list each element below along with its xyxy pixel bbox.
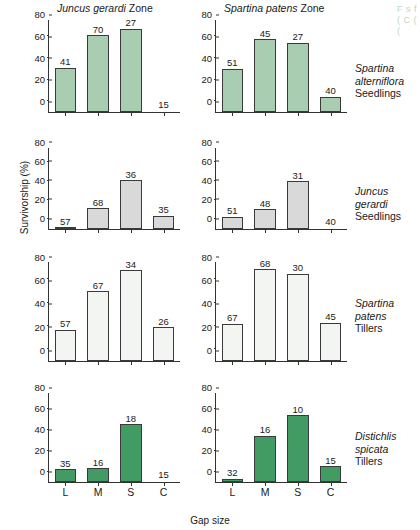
- bar-sample-size-label: 70: [93, 24, 104, 35]
- plot-area: 02040608057683635: [48, 148, 180, 230]
- bar-sample-size-label: 34: [126, 259, 137, 270]
- bar-sample-size-label: 40: [325, 216, 336, 227]
- bar-sample-size-label: 51: [227, 205, 238, 216]
- x-tick-mark: [265, 229, 266, 233]
- bar-L[interactable]: 51: [222, 69, 244, 112]
- x-tick-mark: [164, 482, 165, 486]
- bar-L[interactable]: 57: [55, 330, 77, 361]
- x-tick-mark: [265, 361, 266, 365]
- plot-area: 02040608051483140: [215, 148, 347, 230]
- panel-r1-c1: 02040608041702715: [48, 20, 180, 113]
- bar-sample-size-label: 15: [158, 469, 169, 480]
- bar-M[interactable]: 70: [87, 35, 109, 112]
- x-tick-label-C: C: [147, 486, 180, 498]
- bar-C[interactable]: 15: [320, 466, 342, 482]
- panel-r4-c1: 02040608035161815LMSC: [48, 393, 180, 483]
- x-tick-mark: [298, 112, 299, 116]
- bar-S[interactable]: 10: [287, 415, 309, 482]
- plot-area: 02040608051452740: [215, 20, 347, 113]
- x-tick-mark: [65, 112, 66, 116]
- x-tick-mark: [164, 229, 165, 233]
- x-tick-mark: [98, 361, 99, 365]
- bar-C[interactable]: 26: [153, 327, 175, 361]
- bar-slot-M: 68: [249, 262, 282, 361]
- bar-L[interactable]: 67: [222, 324, 244, 361]
- bar-slot-L: 51: [216, 20, 249, 112]
- bar-M[interactable]: 68: [87, 208, 109, 229]
- bar-S[interactable]: 36: [120, 180, 142, 229]
- panel-r3-c2: 02040608067683045: [215, 262, 347, 362]
- bar-sample-size-label: 68: [93, 197, 104, 208]
- bar-slot-L: 51: [216, 148, 249, 229]
- bar-slot-S: 10: [282, 393, 315, 482]
- bar-M[interactable]: 45: [254, 39, 276, 112]
- bar-L[interactable]: 35: [55, 469, 77, 482]
- bar-sample-size-label: 41: [60, 56, 71, 67]
- figure-canvas: F s f ( C ( ( Juncus gerardi Zone Sparti…: [0, 0, 420, 530]
- bar-C[interactable]: 40: [320, 97, 342, 112]
- bar-S[interactable]: 30: [287, 274, 309, 361]
- bar-group: 57673426: [49, 262, 180, 361]
- bar-slot-M: 67: [82, 262, 115, 361]
- bar-group: 51452740: [216, 20, 347, 112]
- bar-S[interactable]: 27: [287, 43, 309, 112]
- bar-slot-M: 16: [249, 393, 282, 482]
- bar-S[interactable]: 27: [120, 29, 142, 112]
- x-tick-label-L: L: [49, 486, 82, 498]
- x-tick-label-L: L: [216, 486, 249, 498]
- x-tick-mark: [265, 112, 266, 116]
- bar-S[interactable]: 34: [120, 270, 142, 361]
- bar-slot-L: 41: [49, 20, 82, 112]
- bar-sample-size-label: 27: [293, 31, 304, 42]
- bar-sample-size-label: 51: [227, 57, 238, 68]
- bar-sample-size-label: 57: [60, 216, 71, 227]
- bar-sample-size-label: 68: [260, 258, 271, 269]
- bar-S[interactable]: 31: [287, 181, 309, 229]
- bar-C[interactable]: 45: [320, 323, 342, 361]
- bar-M[interactable]: 68: [254, 269, 276, 361]
- bar-slot-S: 27: [115, 20, 148, 112]
- bar-M[interactable]: 16: [87, 468, 109, 482]
- panel-r2-c2: 02040608051483140: [215, 148, 347, 230]
- bar-sample-size-label: 67: [227, 312, 238, 323]
- y-tick-label: 80: [201, 251, 216, 262]
- x-tick-mark: [131, 229, 132, 233]
- x-tick-mark: [298, 229, 299, 233]
- y-tick-label: 80: [34, 251, 49, 262]
- bar-slot-C: 40: [314, 148, 347, 229]
- panel-r2-c1: 02040608057683635: [48, 148, 180, 230]
- bar-sample-size-label: 31: [293, 170, 304, 181]
- bar-S[interactable]: 18: [120, 424, 142, 482]
- bar-sample-size-label: 40: [325, 85, 336, 96]
- row-label-1: Spartina alterniflora Seedlings: [355, 62, 404, 100]
- column-title-left-genus: Juncus gerardi: [57, 2, 126, 14]
- bar-C[interactable]: 35: [153, 216, 175, 229]
- x-tick-mark: [65, 482, 66, 486]
- bar-M[interactable]: 48: [254, 209, 276, 229]
- y-tick-label: 60: [34, 275, 49, 286]
- x-tick-mark: [65, 361, 66, 365]
- row-label-4: Distichlis spicata Tillers: [355, 430, 396, 468]
- x-tick-mark: [298, 482, 299, 486]
- bar-sample-size-label: 15: [158, 99, 169, 110]
- y-tick-label: 40: [34, 298, 49, 309]
- bar-sample-size-label: 10: [293, 404, 304, 415]
- bar-slot-C: 45: [314, 262, 347, 361]
- bar-M[interactable]: 16: [254, 436, 276, 482]
- x-tick-mark: [164, 112, 165, 116]
- bar-group: 41702715: [49, 20, 180, 112]
- bar-L[interactable]: 41: [55, 68, 77, 112]
- bar-M[interactable]: 67: [87, 291, 109, 361]
- bar-slot-C: 35: [147, 148, 180, 229]
- bar-slot-S: 30: [282, 262, 315, 361]
- row-label-4-genus: Distichlis: [355, 430, 396, 443]
- x-tick-mark: [232, 361, 233, 365]
- bar-slot-S: 36: [115, 148, 148, 229]
- x-tick-label-C: C: [314, 486, 347, 498]
- x-tick-label-M: M: [249, 486, 282, 498]
- bar-sample-size-label: 26: [158, 316, 169, 327]
- bar-sample-size-label: 45: [260, 28, 271, 39]
- bar-slot-M: 16: [82, 393, 115, 482]
- bar-L[interactable]: 51: [222, 217, 244, 229]
- bar-slot-M: 48: [249, 148, 282, 229]
